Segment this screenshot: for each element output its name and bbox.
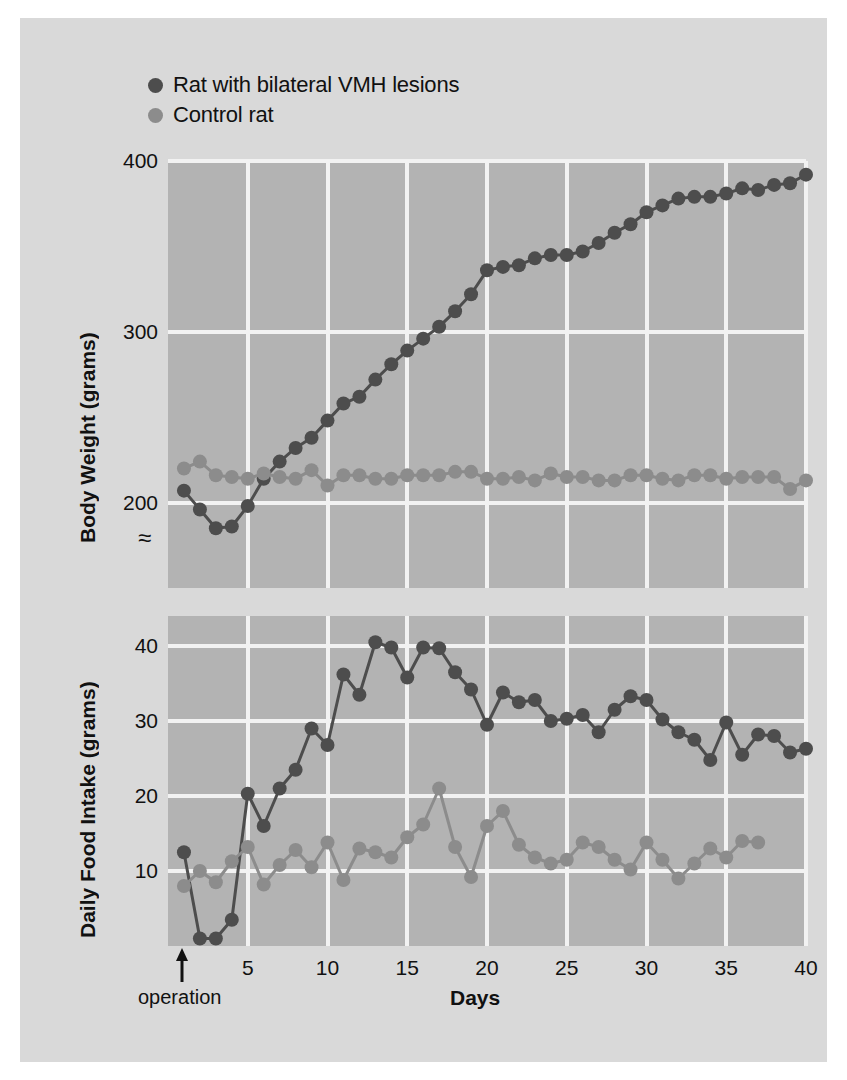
data-point-marker xyxy=(257,819,271,833)
y-axis-tick-label: 200 xyxy=(98,491,158,515)
data-point-marker xyxy=(336,873,350,887)
data-point-marker xyxy=(400,671,414,685)
data-point-marker xyxy=(544,248,558,262)
data-point-marker xyxy=(321,836,335,850)
data-point-marker xyxy=(384,851,398,865)
data-point-marker xyxy=(767,470,781,484)
data-point-marker xyxy=(432,468,446,482)
data-point-marker xyxy=(528,473,542,487)
data-point-marker xyxy=(751,728,765,742)
data-point-marker xyxy=(257,878,271,892)
data-point-marker xyxy=(448,840,462,854)
data-point-marker xyxy=(592,840,606,854)
data-point-marker xyxy=(177,879,191,893)
data-point-marker xyxy=(193,932,207,946)
data-point-marker xyxy=(496,686,510,700)
data-point-marker xyxy=(751,836,765,850)
data-point-marker xyxy=(496,260,510,274)
data-point-marker xyxy=(352,842,366,856)
x-axis-tick-label: 5 xyxy=(242,956,254,980)
data-point-marker xyxy=(352,688,366,702)
data-point-marker xyxy=(512,258,526,272)
data-point-marker xyxy=(592,473,606,487)
data-point-marker xyxy=(608,853,622,867)
data-point-marker xyxy=(464,465,478,479)
data-point-marker xyxy=(352,468,366,482)
data-point-marker xyxy=(464,870,478,884)
data-point-marker xyxy=(368,845,382,859)
legend-label-vmh: Rat with bilateral VMH lesions xyxy=(173,72,459,98)
data-point-marker xyxy=(608,703,622,717)
data-point-marker xyxy=(480,472,494,486)
data-point-marker xyxy=(448,665,462,679)
data-point-marker xyxy=(719,186,733,200)
data-point-marker xyxy=(193,455,207,469)
data-point-marker xyxy=(703,468,717,482)
data-point-marker xyxy=(735,748,749,762)
data-point-marker xyxy=(799,742,813,756)
y-axis-tick-label: 10 xyxy=(98,859,158,883)
data-point-marker xyxy=(289,763,303,777)
operation-annotation-label: operation xyxy=(138,986,221,1009)
data-point-marker xyxy=(416,332,430,346)
data-point-marker xyxy=(640,836,654,850)
data-point-marker xyxy=(273,470,287,484)
data-point-marker xyxy=(241,787,255,801)
data-point-marker xyxy=(655,713,669,727)
data-point-marker xyxy=(209,875,223,889)
data-point-marker xyxy=(289,843,303,857)
chart-food-intake xyxy=(168,616,806,946)
x-axis-title: Days xyxy=(450,986,500,1010)
data-point-marker xyxy=(512,695,526,709)
data-point-marker xyxy=(432,782,446,796)
data-point-marker xyxy=(624,689,638,703)
data-point-marker xyxy=(799,168,813,182)
data-point-marker xyxy=(241,499,255,513)
data-point-marker xyxy=(496,472,510,486)
data-point-marker xyxy=(336,397,350,411)
data-point-marker xyxy=(783,176,797,190)
data-point-marker xyxy=(209,468,223,482)
data-point-marker xyxy=(177,484,191,498)
data-point-marker xyxy=(209,932,223,946)
data-point-marker xyxy=(289,441,303,455)
data-point-marker xyxy=(671,192,685,206)
data-point-marker xyxy=(368,472,382,486)
data-point-marker xyxy=(241,472,255,486)
data-point-marker xyxy=(528,693,542,707)
x-axis-tick-label: 25 xyxy=(555,956,578,980)
legend-item-vmh: Rat with bilateral VMH lesions xyxy=(148,70,748,100)
data-point-marker xyxy=(624,217,638,231)
data-point-marker xyxy=(400,830,414,844)
data-point-marker xyxy=(416,818,430,832)
chart-body-weight xyxy=(168,161,806,588)
operation-arrow-icon xyxy=(172,948,192,984)
data-point-marker xyxy=(528,251,542,265)
data-point-marker xyxy=(273,858,287,872)
x-axis-tick-label: 30 xyxy=(635,956,658,980)
data-point-marker xyxy=(783,482,797,496)
data-point-marker xyxy=(193,502,207,516)
data-point-marker xyxy=(416,641,430,655)
y-axis-tick-label: 300 xyxy=(98,320,158,344)
data-point-marker xyxy=(640,205,654,219)
data-point-marker xyxy=(225,520,239,534)
data-point-marker xyxy=(384,641,398,655)
data-point-marker xyxy=(225,913,239,927)
data-point-marker xyxy=(576,708,590,722)
data-point-marker xyxy=(368,635,382,649)
data-point-marker xyxy=(384,357,398,371)
x-axis-tick-label: 10 xyxy=(316,956,339,980)
data-point-marker xyxy=(305,860,319,874)
data-point-marker xyxy=(384,472,398,486)
data-point-marker xyxy=(368,373,382,387)
data-point-marker xyxy=(640,468,654,482)
data-point-marker xyxy=(432,320,446,334)
x-axis-tick-label: 40 xyxy=(794,956,817,980)
data-point-marker xyxy=(655,472,669,486)
data-point-marker xyxy=(560,248,574,262)
data-point-marker xyxy=(560,712,574,726)
data-point-marker xyxy=(416,468,430,482)
data-point-marker xyxy=(767,178,781,192)
data-point-marker xyxy=(177,461,191,475)
